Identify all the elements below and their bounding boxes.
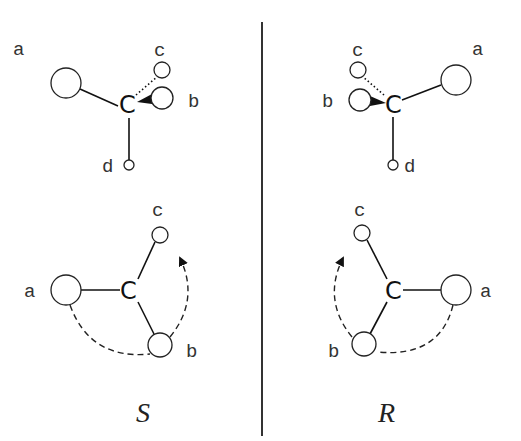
atom-b (148, 333, 172, 357)
atom-c (154, 62, 170, 78)
configuration-label-r: R (377, 397, 395, 428)
dashed-arc-a-to-b (377, 305, 453, 353)
label-b: b (322, 91, 333, 113)
s-projection-3d: C a b c d (13, 39, 199, 178)
bond-b (370, 302, 387, 334)
atom-c (354, 225, 370, 241)
dashed-arc-b-to-c (170, 258, 188, 337)
dashed-arc-a-to-b (70, 305, 150, 355)
configuration-label-s: S (136, 397, 150, 428)
label-b: b (328, 341, 339, 363)
dashed-arc-b-to-c (334, 258, 352, 337)
atom-a (441, 275, 471, 305)
r-projection-3d: C a b c d (322, 39, 483, 178)
label-a: a (480, 281, 491, 303)
center-carbon: C (120, 277, 137, 305)
atom-d (388, 160, 398, 170)
label-c: c (152, 200, 163, 222)
center-carbon: C (385, 91, 402, 119)
chirality-diagram: C a b c d C a c b S C a b c d (0, 0, 521, 441)
atom-a (51, 275, 81, 305)
label-a: a (24, 281, 35, 303)
r-planar-view: C a c b (328, 200, 491, 363)
bond-c (367, 240, 387, 279)
bond-a (80, 89, 118, 106)
atom-c (350, 62, 366, 78)
center-carbon: C (385, 277, 402, 305)
label-c: c (154, 40, 165, 62)
label-b: b (186, 341, 197, 363)
label-c: c (352, 40, 363, 62)
atom-a (441, 65, 471, 95)
s-planar-view: C a c b (24, 200, 197, 363)
atom-b (151, 87, 173, 109)
atom-a (51, 68, 81, 98)
bond-b (138, 302, 154, 334)
atom-b (349, 89, 371, 111)
atom-b (352, 332, 376, 356)
label-b: b (188, 91, 199, 113)
bond-c (138, 242, 155, 279)
atom-d (124, 160, 134, 170)
atom-c (152, 227, 168, 243)
bond-b-wedge (137, 94, 152, 104)
label-a: a (13, 39, 24, 61)
label-a: a (472, 39, 483, 61)
label-d: d (102, 156, 113, 178)
bond-a (402, 85, 441, 100)
bond-b-wedge (370, 96, 386, 106)
label-d: d (404, 156, 415, 178)
center-carbon: C (119, 91, 136, 119)
label-c: c (354, 200, 365, 222)
